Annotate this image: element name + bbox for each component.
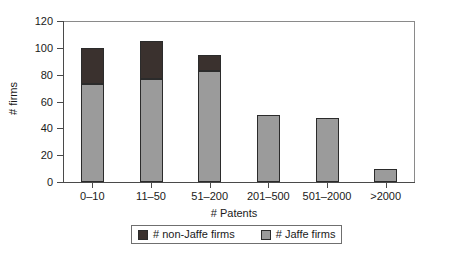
y-axis-tick-label: 120 [13, 16, 53, 27]
x-axis-tick [151, 183, 152, 188]
bar-segment-jaffe [198, 71, 221, 182]
x-axis-tick [327, 183, 328, 188]
bar-segment-jaffe [140, 79, 163, 182]
bar-stack [316, 21, 339, 182]
legend-entry: # non-Jaffe firms [138, 229, 235, 240]
bar-segment-jaffe [81, 84, 104, 182]
bar-segment-jaffe [374, 169, 397, 182]
bar-segment-non-jaffe [140, 41, 163, 79]
y-axis-tick-label: 80 [13, 70, 53, 81]
bar-segment-jaffe [257, 115, 280, 182]
bar-segment-non-jaffe [198, 55, 221, 71]
chart-figure: 020406080100120 0–1011–5051–200201–50050… [0, 0, 468, 263]
bar-stack [81, 21, 104, 182]
x-axis-title: # Patents [0, 207, 468, 219]
chart-legend: # non-Jaffe firms# Jaffe firms [131, 225, 342, 244]
x-axis-line [63, 182, 415, 183]
x-axis-tick [268, 183, 269, 188]
bar-stack [198, 21, 221, 182]
legend-swatch-icon [261, 230, 271, 240]
x-axis-tick [92, 183, 93, 188]
bar-stack [374, 21, 397, 182]
y-axis-tick-label: 20 [13, 150, 53, 161]
y-axis-tick-label: 40 [13, 123, 53, 134]
bar-stack [257, 21, 280, 182]
x-axis-tick [386, 183, 387, 188]
y-axis-tick-label: 60 [13, 97, 53, 108]
bar-segment-non-jaffe [81, 48, 104, 84]
y-axis-title: # firms [8, 69, 19, 129]
bar-stack [140, 21, 163, 182]
x-axis-tick [210, 183, 211, 188]
legend-label: # non-Jaffe firms [153, 229, 235, 240]
legend-swatch-icon [138, 230, 148, 240]
y-axis-tick-label: 100 [13, 43, 53, 54]
plot-panel-frame [63, 21, 415, 183]
y-axis-tick-label: 0 [13, 177, 53, 188]
bar-segment-jaffe [316, 118, 339, 182]
legend-entry: # Jaffe firms [261, 229, 336, 240]
y-axis-line [63, 21, 64, 183]
x-axis-tick-label: >2000 [346, 190, 426, 202]
legend-label: # Jaffe firms [276, 229, 336, 240]
